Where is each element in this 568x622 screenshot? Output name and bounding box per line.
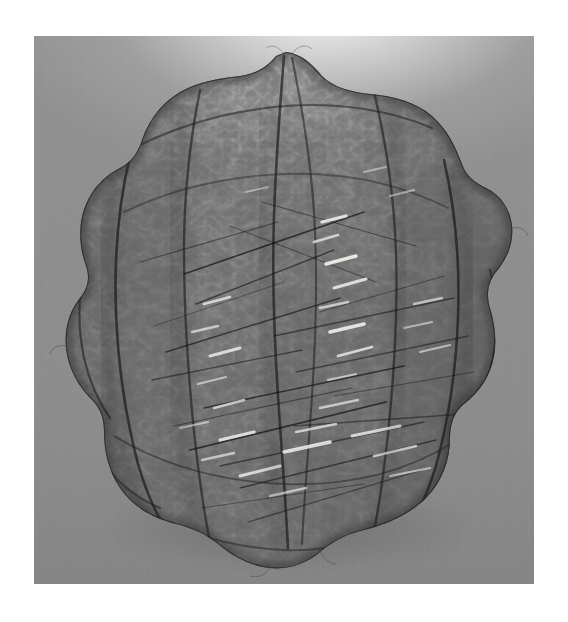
film-grain xyxy=(34,36,534,584)
photo-plate: A large lumpy organic sculpture woven fr… xyxy=(34,36,534,584)
photograph-page: A large lumpy organic sculpture woven fr… xyxy=(0,0,568,622)
wire-mesh-sculpture-icon xyxy=(34,36,534,584)
